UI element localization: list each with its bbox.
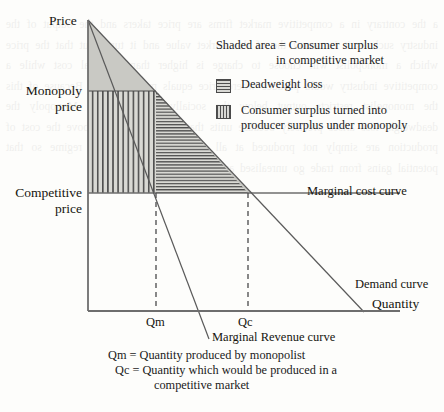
caption-line-qc-cont: competitive market	[108, 378, 408, 393]
demand-curve-label: Demand curve	[355, 277, 428, 292]
legend-item-cs-to-ps-line2: producer surplus under monopoly	[241, 118, 407, 132]
legend-item-deadweight-loss: Deadweight loss	[216, 77, 442, 93]
legend-heading-line2: in competitive market	[216, 53, 442, 68]
y-tick-label-monopoly-price: Monopolyprice	[23, 83, 82, 115]
legend: Shaded area = Consumer surplus in compet…	[216, 38, 442, 132]
y-tick-label-competitive-price: Competitiveprice	[9, 185, 82, 217]
monopoly-price-line2: price	[55, 99, 82, 114]
horizontal-hatch-swatch-icon	[216, 79, 231, 93]
competitive-price-line1: Competitive	[15, 185, 82, 200]
below-mc-mask	[88, 193, 362, 312]
monopoly-price-line1: Monopoly	[26, 83, 82, 98]
legend-item-cs-to-ps-line1: Consumer surplus turned into	[241, 103, 387, 117]
legend-heading: Shaded area = Consumer surplus in compet…	[216, 38, 442, 67]
marginal-cost-curve-label: Marginal cost curve	[307, 184, 407, 199]
competitive-price-line2: price	[55, 201, 82, 216]
region-cs-to-ps-vertical-hatch	[88, 91, 156, 193]
legend-item-cs-to-ps-label: Consumer surplus turned into producer su…	[241, 103, 407, 132]
y-axis-title: Price	[49, 13, 77, 29]
legend-item-deadweight-loss-label: Deadweight loss	[241, 77, 323, 92]
legend-item-cs-to-ps: Consumer surplus turned into producer su…	[216, 103, 442, 132]
vertical-hatch-swatch-icon	[216, 105, 231, 119]
x-tick-label-qm: Qm	[146, 315, 165, 330]
marginal-revenue-curve-label: Marginal Revenue curve	[212, 330, 335, 345]
x-tick-label-qc: Qc	[238, 315, 253, 330]
caption-line-qc: Qc = Quantity which would be produced in…	[108, 363, 408, 378]
caption-line-qm: Qm = Quantity produced by monopolist	[108, 348, 305, 362]
x-axis-title: Quantity	[372, 296, 419, 312]
legend-heading-line1: Shaded area = Consumer surplus	[216, 38, 378, 52]
figure-caption: Qm = Quantity produced by monopolist Qc …	[108, 348, 408, 392]
